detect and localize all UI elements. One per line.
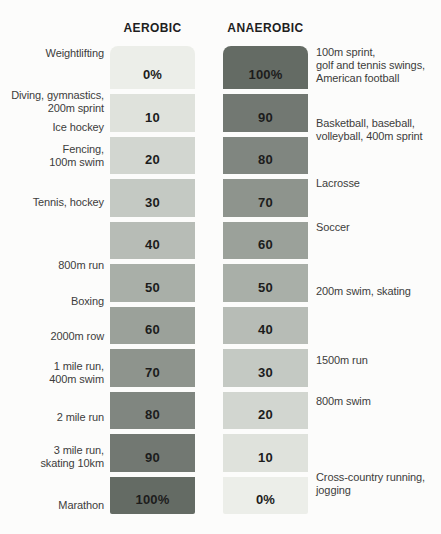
right-label-line: Basketball, baseball, [316, 117, 438, 130]
aerobic-bar-value: 0% [110, 67, 195, 82]
left-label: 800m run [0, 259, 104, 272]
right-label: Lacrosse [316, 177, 438, 190]
left-label-line: 400m swim [0, 373, 104, 386]
aerobic-bar-value: 80 [110, 407, 195, 422]
anaerobic-bar: 10 [223, 434, 308, 472]
anaerobic-bar: 70 [223, 179, 308, 217]
right-label-line: 100m sprint, [316, 46, 438, 59]
anaerobic-bar-value: 0% [223, 492, 308, 507]
left-label: Weightlifting [0, 47, 104, 60]
left-label-line: Tennis, hockey [0, 196, 104, 209]
aerobic-anaerobic-chart: AEROBIC ANAEROBIC 0%100%1090208030704060… [0, 0, 441, 534]
left-label: 1 mile run,400m swim [0, 360, 104, 386]
left-label: Tennis, hockey [0, 196, 104, 209]
aerobic-bar-value: 60 [110, 322, 195, 337]
left-label: Fencing,100m swim [0, 143, 104, 169]
right-label-line: 1500m run [316, 354, 438, 367]
right-label: Cross-country running,jogging [316, 471, 438, 497]
left-label-line: skating 10km [0, 457, 104, 470]
aerobic-bar-value: 90 [110, 450, 195, 465]
left-label-line: 3 mile run, [0, 444, 104, 457]
aerobic-bar: 0% [110, 46, 195, 89]
right-label: Soccer [316, 221, 438, 234]
anaerobic-bar: 50 [223, 264, 308, 302]
aerobic-bar: 30 [110, 179, 195, 217]
anaerobic-column-header: ANAEROBIC [223, 21, 308, 35]
right-label: Basketball, baseball,volleyball, 400m sp… [316, 117, 438, 143]
anaerobic-bar: 40 [223, 307, 308, 345]
aerobic-bar: 20 [110, 137, 195, 175]
left-label-line: Diving, gymnastics, [0, 89, 104, 102]
anaerobic-bar-value: 50 [223, 280, 308, 295]
anaerobic-bar-value: 90 [223, 110, 308, 125]
left-label-line: Marathon [0, 499, 104, 512]
left-label: 2000m row [0, 330, 104, 343]
right-label-line: 800m swim [316, 395, 438, 408]
aerobic-bar: 50 [110, 264, 195, 302]
left-label-line: 200m sprint [0, 102, 104, 115]
right-label-line: Lacrosse [316, 177, 438, 190]
aerobic-bar: 60 [110, 307, 195, 345]
right-label-line: American football [316, 72, 438, 85]
right-label-line: golf and tennis swings, [316, 59, 438, 72]
aerobic-bar: 80 [110, 392, 195, 430]
right-label: 200m swim, skating [316, 285, 438, 298]
right-label-line: Soccer [316, 221, 438, 234]
anaerobic-bar-value: 20 [223, 407, 308, 422]
right-label-line: 200m swim, skating [316, 285, 438, 298]
left-label-line: 1 mile run, [0, 360, 104, 373]
anaerobic-bar: 80 [223, 137, 308, 175]
left-label: 3 mile run,skating 10km [0, 444, 104, 470]
right-label: 800m swim [316, 395, 438, 408]
aerobic-bar-value: 40 [110, 237, 195, 252]
anaerobic-bar-value: 30 [223, 365, 308, 380]
aerobic-bar-value: 10 [110, 110, 195, 125]
aerobic-bar: 100% [110, 477, 195, 515]
aerobic-bar: 90 [110, 434, 195, 472]
left-label-line: Ice hockey [0, 121, 104, 134]
aerobic-bar-value: 70 [110, 365, 195, 380]
aerobic-bar-value: 100% [110, 492, 195, 507]
anaerobic-bar: 20 [223, 392, 308, 430]
left-label: Diving, gymnastics,200m sprint [0, 89, 104, 115]
aerobic-bar-value: 50 [110, 280, 195, 295]
aerobic-bar: 10 [110, 94, 195, 132]
anaerobic-bar-value: 80 [223, 152, 308, 167]
left-label: 2 mile run [0, 411, 104, 424]
right-label-line: volleyball, 400m sprint [316, 130, 438, 143]
left-label: Boxing [0, 295, 104, 308]
right-label-line: Cross-country running, [316, 471, 438, 484]
anaerobic-bar-value: 10 [223, 450, 308, 465]
anaerobic-bar: 30 [223, 349, 308, 387]
left-label-line: 100m swim [0, 156, 104, 169]
anaerobic-bar: 60 [223, 222, 308, 260]
right-label-line: jogging [316, 484, 438, 497]
right-label: 100m sprint,golf and tennis swings,Ameri… [316, 46, 438, 85]
aerobic-bar-value: 30 [110, 195, 195, 210]
aerobic-bar: 70 [110, 349, 195, 387]
left-label: Ice hockey [0, 121, 104, 134]
anaerobic-bar-value: 100% [223, 67, 308, 82]
anaerobic-bar-value: 70 [223, 195, 308, 210]
left-label-line: 2 mile run [0, 411, 104, 424]
right-label: 1500m run [316, 354, 438, 367]
anaerobic-bar: 100% [223, 46, 308, 89]
aerobic-column-header: AEROBIC [110, 21, 195, 35]
aerobic-bar: 40 [110, 222, 195, 260]
anaerobic-bar-value: 40 [223, 322, 308, 337]
left-label-line: 2000m row [0, 330, 104, 343]
left-label-line: Weightlifting [0, 47, 104, 60]
aerobic-bar-value: 20 [110, 152, 195, 167]
left-label: Marathon [0, 499, 104, 512]
left-label-line: Fencing, [0, 143, 104, 156]
anaerobic-bar: 90 [223, 94, 308, 132]
anaerobic-bar-value: 60 [223, 237, 308, 252]
anaerobic-bar: 0% [223, 477, 308, 515]
left-label-line: 800m run [0, 259, 104, 272]
left-label-line: Boxing [0, 295, 104, 308]
